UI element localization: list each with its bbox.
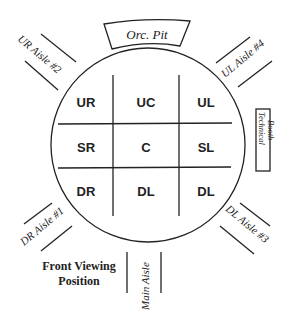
front-viewing-label-line1: Front Viewing xyxy=(42,259,115,273)
ur-aisle-label: UR Aisle #2 xyxy=(16,32,65,76)
front-viewing-label-line2: Position xyxy=(58,274,100,288)
area-label-ur: UR xyxy=(77,95,96,110)
technical-booth: Technical Booth xyxy=(256,109,276,171)
dl-aisle: DL Aisle #3 xyxy=(220,202,272,254)
area-label-dl-center: DL xyxy=(137,184,154,199)
grid-line-horizontal-top xyxy=(58,123,232,124)
technical-booth-label-line2: Booth xyxy=(266,120,276,140)
main-aisle-label: Main Aisle xyxy=(139,262,151,311)
grid-line-horizontal-bottom xyxy=(58,167,231,168)
orchestra-pit: Orc. Pit xyxy=(104,20,190,49)
dr-aisle: DR Aisle #1 xyxy=(17,203,72,251)
area-label-sr: SR xyxy=(77,140,96,155)
area-label-c: C xyxy=(141,140,151,155)
area-label-sl: SL xyxy=(198,140,215,155)
orchestra-pit-label: Orc. Pit xyxy=(126,27,168,42)
main-aisle: Main Aisle xyxy=(127,252,161,311)
front-viewing-position: Front Viewing Position xyxy=(42,259,115,288)
area-label-dr: DR xyxy=(77,184,96,199)
ul-aisle: UL Aisle #4 xyxy=(216,36,272,87)
area-label-ul: UL xyxy=(197,95,214,110)
area-label-uc: UC xyxy=(137,95,156,110)
area-label-dl-right: DL xyxy=(197,184,214,199)
stage-diagram: UR UC UL SR C SL DR DL DL Orc. Pit UR Ai… xyxy=(0,0,298,329)
stage-area-labels: UR UC UL SR C SL DR DL DL xyxy=(77,95,215,199)
ur-aisle: UR Aisle #2 xyxy=(16,32,76,90)
technical-booth-label-line1: Technical xyxy=(257,112,267,145)
